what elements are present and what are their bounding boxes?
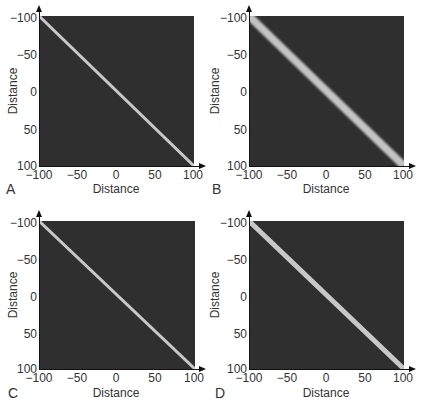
x-tick: −100 [19, 169, 59, 181]
y-axis-label: Distance [208, 255, 222, 335]
diagonal-band-d [249, 221, 404, 369]
x-tick: 100 [383, 169, 421, 181]
y-tick: −100 [217, 217, 247, 229]
x-tick: 0 [96, 372, 136, 384]
x-tick: −50 [267, 169, 307, 181]
x-tick: 50 [345, 169, 385, 181]
diagonal-line-a [39, 16, 194, 166]
y-tick: −100 [7, 12, 37, 24]
x-tick: −50 [267, 372, 307, 384]
panel-label-c: C [8, 385, 18, 401]
panel-label-a: A [6, 181, 15, 197]
diagonal-line-c [39, 221, 195, 369]
y-axis-b [249, 8, 250, 166]
x-tick: 100 [173, 169, 213, 181]
x-axis-label: Distance [66, 386, 166, 400]
diagonal-band-b [249, 16, 404, 166]
x-tick: 0 [96, 169, 136, 181]
x-axis-label: Distance [276, 386, 376, 400]
y-tick: −100 [217, 12, 247, 24]
x-axis-d [249, 369, 411, 370]
x-tick: −100 [19, 372, 59, 384]
panel-label-d: D [215, 385, 225, 401]
x-tick: 100 [174, 372, 214, 384]
y-axis-label: Distance [6, 51, 20, 131]
heatmap-d [249, 221, 404, 369]
x-axis-label: Distance [276, 182, 376, 196]
x-axis-b [249, 166, 411, 167]
x-tick: −100 [229, 169, 269, 181]
x-tick: 0 [306, 169, 346, 181]
y-tick: −100 [7, 217, 37, 229]
x-tick: 100 [383, 372, 421, 384]
x-tick: 0 [306, 372, 346, 384]
heatmap-a [39, 16, 194, 166]
x-axis-a [39, 166, 201, 167]
y-axis-label: Distance [208, 51, 222, 131]
x-tick: 50 [345, 372, 385, 384]
heatmap-c [39, 221, 195, 369]
x-tick: 50 [135, 372, 175, 384]
x-tick: −50 [57, 372, 97, 384]
x-tick: −100 [229, 372, 269, 384]
y-axis-d [249, 213, 250, 369]
x-axis-label: Distance [66, 182, 166, 196]
x-tick: −50 [57, 169, 97, 181]
x-axis-c [39, 369, 201, 370]
x-tick: 50 [135, 169, 175, 181]
y-axis-c [39, 213, 40, 369]
heatmap-b [249, 16, 404, 166]
y-axis-label: Distance [6, 255, 20, 335]
y-axis-a [39, 8, 40, 166]
panel-label-b: B [212, 181, 221, 197]
